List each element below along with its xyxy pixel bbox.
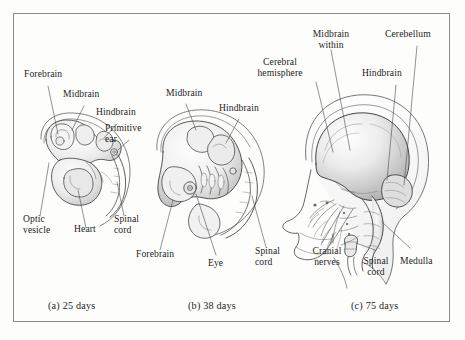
label-c-hindbrain: Hindbrain <box>362 68 402 79</box>
label-c-cerebral-hemisphere: Cerebral hemisphere <box>243 57 317 78</box>
label-c-cranial-nerves: Cranial nerves <box>303 246 351 267</box>
label-a-hindbrain: Hindbrain <box>96 107 136 118</box>
label-a-primitive-ear: Primitive ear <box>105 123 142 144</box>
label-a-spinal-cord: Spinal cord <box>114 214 139 235</box>
label-c-spinal-cord: Spinal cord <box>355 256 397 277</box>
label-c-cerebellum: Cerebellum <box>385 29 431 40</box>
label-b-midbrain: Midbrain <box>166 88 203 99</box>
embryo-brain-development-figure: Forebrain Midbrain Hindbrain Primitive e… <box>0 0 465 340</box>
label-c-midbrain-within: Midbrain within <box>300 29 362 50</box>
label-b-eye: Eye <box>208 258 223 269</box>
label-b-hindbrain: Hindbrain <box>219 103 259 114</box>
caption-panel-a: (a) 25 days <box>48 300 95 311</box>
label-b-forebrain: Forebrain <box>136 249 174 260</box>
label-a-midbrain: Midbrain <box>63 89 100 100</box>
caption-panel-c: (c) 75 days <box>351 300 398 311</box>
label-a-optic-vesicle: Optic vesicle <box>23 214 50 235</box>
label-b-spinal-cord: Spinal cord <box>255 246 280 267</box>
label-a-forebrain: Forebrain <box>24 69 62 80</box>
caption-panel-b: (b) 38 days <box>188 300 236 311</box>
label-c-medulla: Medulla <box>400 256 433 267</box>
label-a-heart: Heart <box>74 224 96 235</box>
